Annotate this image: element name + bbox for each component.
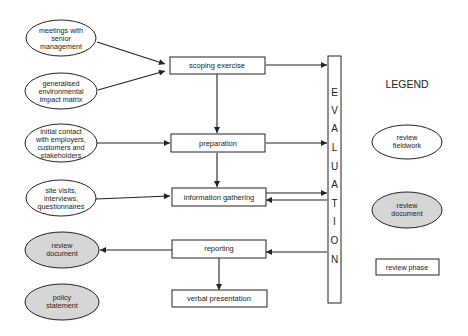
evaluation-process-diagram: meetings with senior management generali… [0, 0, 468, 336]
ellipse-meetings: meetings with senior management [26, 20, 96, 56]
presentation-label: verbal presentation [187, 294, 251, 303]
scoping-label: scoping exercise [189, 61, 245, 70]
ellipse-visits-line3: questionnaires [38, 202, 85, 211]
legend-fieldwork-line2: fieldwork [393, 141, 422, 150]
box-verbal-presentation: verbal presentation [172, 290, 267, 307]
evaluation-letter-o: O [331, 235, 339, 246]
legend-document-item: review document [372, 192, 442, 228]
preparation-label: preparation [199, 139, 237, 148]
legend-phase-item: review phase [376, 259, 439, 275]
evaluation-letter-v: V [331, 105, 338, 116]
ellipse-contact-line4: stakeholders [41, 151, 82, 160]
arrow-visits-to-information [96, 196, 170, 199]
evaluation-letter-a1: A [331, 123, 338, 134]
box-reporting: reporting [172, 240, 266, 258]
information-label: information gathering [184, 193, 254, 202]
evaluation-letter-n: N [331, 254, 338, 265]
legend-title: LEGEND [385, 78, 429, 90]
box-information-gathering: information gathering [172, 188, 266, 206]
box-preparation: preparation [171, 134, 265, 152]
legend-phase-label: review phase [386, 263, 428, 272]
ellipse-contact: initial contact with employers, customer… [25, 124, 97, 162]
ellipse-policy-statement: policy statement [25, 284, 99, 320]
evaluation-letter-l: L [332, 142, 338, 153]
evaluation-letter-a2: A [331, 179, 338, 190]
box-scoping-exercise: scoping exercise [170, 57, 265, 74]
arrow-meetings-to-scoping [97, 42, 165, 64]
arrow-matrix-to-scoping [98, 71, 165, 90]
policy-statement-line2: statement [46, 301, 78, 310]
legend-document-line2: document [391, 209, 423, 218]
evaluation-letter-t: T [331, 198, 337, 209]
reporting-label: reporting [204, 244, 234, 253]
ellipse-review-document: review document [25, 232, 99, 268]
ellipse-matrix-line3: impact matrix [40, 95, 83, 104]
ellipse-matrix: generalised environmental impact matrix [25, 73, 97, 109]
ellipse-meetings-line3: management [40, 42, 82, 51]
evaluation-bar: E V A L U A T I O N [328, 56, 341, 303]
legend: LEGEND review fieldwork review document … [372, 78, 442, 275]
evaluation-letter-i: I [333, 216, 336, 227]
legend-fieldwork-item: review fieldwork [372, 125, 442, 159]
ellipse-visits: site visits, interviews, questionnaires [26, 180, 96, 216]
evaluation-letter-e: E [331, 87, 338, 98]
evaluation-letter-u: U [331, 161, 338, 172]
review-document-line2: document [46, 249, 78, 258]
